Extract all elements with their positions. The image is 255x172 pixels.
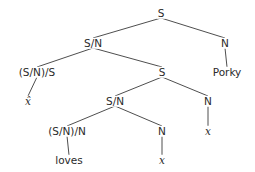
tree-node-category: N [220,38,230,49]
tree-node-category: N [157,126,167,137]
tree-edge [115,77,162,96]
tree-edge [93,18,161,38]
tree-node-category: S [158,67,167,78]
tree-leaf-word: Porky [212,67,243,78]
tree-edge [162,77,208,96]
tree-leaf-word: loves [54,155,84,166]
tree-edge [93,48,162,67]
tree-leaf-variable: x̂ [24,96,32,107]
syntax-tree-diagram: SS/NN(S/N)/SSPorkyx̂S/NN(S/N)/NNxlovesx [0,0,255,172]
tree-node-category: (S/N)/S [18,67,56,78]
tree-edge [28,77,37,96]
tree-leaf-variable: x [204,126,212,137]
tree-node-category: (S/N)/N [47,126,87,137]
tree-edge [115,106,162,126]
tree-edge [37,48,93,67]
tree-node-category: S [157,8,166,19]
tree-edge [161,18,225,38]
tree-edges [0,0,255,172]
tree-node-category: S/N [105,96,125,107]
tree-edge [67,106,115,126]
tree-edge [225,48,227,67]
tree-leaf-variable: x [158,155,166,166]
tree-edge [67,136,69,155]
tree-node-category: S/N [83,38,103,49]
tree-node-category: N [203,96,213,107]
